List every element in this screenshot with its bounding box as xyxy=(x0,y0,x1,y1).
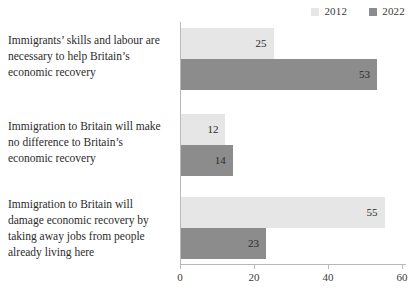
category-label-0-line-1: necessary to help Britain’s xyxy=(8,48,176,64)
x-axis-line xyxy=(180,264,406,265)
bar-value-2012-group-2: 55 xyxy=(367,207,385,218)
category-label-2-line-0: Immigration to Britain will xyxy=(8,196,176,212)
bar-value-2012-group-1: 12 xyxy=(207,124,225,135)
plot-area: 0 20 40 60 25 53 12 14 55 xyxy=(180,22,406,265)
bar-chart: 2012 2022 Immigrants’ skills and labour … xyxy=(0,0,411,298)
category-label-0-line-2: economic recovery xyxy=(8,64,176,80)
bar-2012-group-1: 12 xyxy=(181,114,225,145)
legend-label-2012: 2012 xyxy=(324,6,347,17)
bar-2012-group-2: 55 xyxy=(181,197,385,228)
x-tick-label-1: 20 xyxy=(249,272,260,283)
bar-value-2022-group-1: 14 xyxy=(215,155,233,166)
category-label-1-line-2: economic recovery xyxy=(8,150,176,166)
bar-2022-group-0: 53 xyxy=(181,59,377,90)
x-tick-mark-0 xyxy=(180,265,181,269)
legend-swatch-2012 xyxy=(311,8,319,16)
legend-swatch-2022 xyxy=(369,8,377,16)
x-tick-label-2: 40 xyxy=(323,272,334,283)
category-label-1: Immigration to Britain will make no diff… xyxy=(8,118,176,166)
chart-legend: 2012 2022 xyxy=(311,6,405,17)
bar-2022-group-1: 14 xyxy=(181,145,233,176)
category-label-2-line-3: already living here xyxy=(8,244,176,260)
legend-label-2022: 2022 xyxy=(382,6,405,17)
category-label-0: Immigrants’ skills and labour are necess… xyxy=(8,32,176,80)
x-tick-label-3: 60 xyxy=(397,272,408,283)
bar-2022-group-2: 23 xyxy=(181,228,266,259)
bar-value-2022-group-2: 23 xyxy=(248,238,266,249)
bar-2012-group-0: 25 xyxy=(181,28,274,59)
category-label-1-line-0: Immigration to Britain will make xyxy=(8,118,176,134)
category-label-2: Immigration to Britain will damage econo… xyxy=(8,196,176,260)
legend-item-2012: 2012 xyxy=(311,6,347,17)
legend-item-2022: 2022 xyxy=(369,6,405,17)
category-label-2-line-2: taking away jobs from people xyxy=(8,228,176,244)
bar-value-2012-group-0: 25 xyxy=(256,38,274,49)
category-label-2-line-1: damage economic recovery by xyxy=(8,212,176,228)
x-tick-label-0: 0 xyxy=(177,272,183,283)
category-label-0-line-0: Immigrants’ skills and labour are xyxy=(8,32,176,48)
x-tick-mark-2 xyxy=(328,265,329,269)
x-tick-mark-3 xyxy=(402,265,403,269)
bar-value-2022-group-0: 53 xyxy=(359,69,377,80)
category-label-1-line-1: no difference to Britain’s xyxy=(8,134,176,150)
x-tick-mark-1 xyxy=(254,265,255,269)
